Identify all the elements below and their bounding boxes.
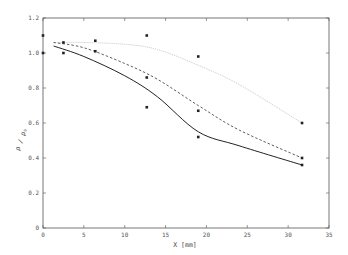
y-tick-label: 0.2 bbox=[28, 189, 39, 196]
line-chart: 05101520253035 00.20.40.60.81.01.2 X [mm… bbox=[0, 0, 348, 255]
data-point-marker bbox=[62, 52, 65, 55]
x-axis-ticks: 05101520253035 bbox=[41, 18, 333, 238]
data-point-marker bbox=[301, 157, 304, 160]
y-tick-label: 0.4 bbox=[28, 154, 39, 161]
curves bbox=[54, 42, 302, 165]
data-point-marker bbox=[42, 34, 45, 37]
data-point-marker bbox=[62, 41, 65, 44]
x-tick-label: 15 bbox=[162, 231, 170, 238]
dotted-curve bbox=[54, 42, 302, 123]
x-tick-label: 10 bbox=[121, 231, 129, 238]
x-tick-label: 20 bbox=[203, 231, 211, 238]
x-tick-label: 0 bbox=[41, 231, 45, 238]
y-axis-ticks: 00.20.40.60.81.01.2 bbox=[28, 14, 329, 231]
y-tick-label: 0 bbox=[35, 224, 39, 231]
y-tick-label: 1.0 bbox=[28, 49, 39, 56]
data-point-marker bbox=[94, 39, 97, 42]
x-tick-label: 30 bbox=[285, 231, 293, 238]
data-point-marker bbox=[301, 164, 304, 167]
y-tick-label: 0.8 bbox=[28, 84, 39, 91]
data-points bbox=[42, 34, 304, 166]
x-axis-label: X [mm] bbox=[173, 241, 196, 249]
y-axis-label: ρ / ρ₀ bbox=[13, 127, 29, 152]
x-tick-label: 25 bbox=[244, 231, 252, 238]
y-tick-label: 1.2 bbox=[28, 14, 39, 21]
data-point-marker bbox=[145, 34, 148, 37]
data-point-marker bbox=[145, 76, 148, 79]
data-point-marker bbox=[42, 52, 45, 55]
solid-curve bbox=[54, 46, 302, 165]
data-point-marker bbox=[197, 136, 200, 139]
x-tick-label: 5 bbox=[82, 231, 86, 238]
data-point-marker bbox=[197, 109, 200, 112]
data-point-marker bbox=[94, 50, 97, 53]
data-point-marker bbox=[197, 55, 200, 58]
y-tick-label: 0.6 bbox=[28, 119, 39, 126]
x-tick-label: 35 bbox=[325, 231, 333, 238]
data-point-marker bbox=[145, 106, 148, 109]
data-point-marker bbox=[301, 122, 304, 125]
